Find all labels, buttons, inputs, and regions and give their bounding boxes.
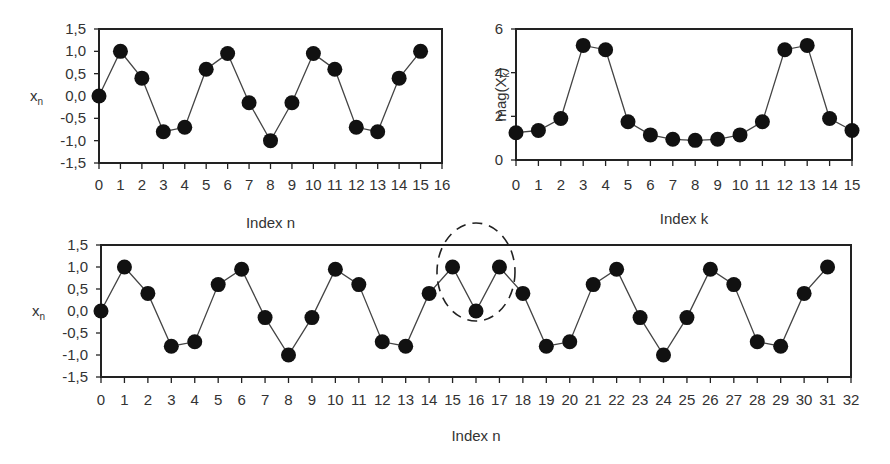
data-point-marker (492, 260, 507, 275)
y-tick-label: 0,0 (67, 302, 88, 319)
data-point-marker (643, 127, 658, 142)
data-point-marker (820, 260, 835, 275)
y-tick-label: 1,5 (65, 20, 86, 37)
data-point-marker (445, 260, 460, 275)
x-tick-label: 2 (138, 176, 146, 193)
y-tick-label: -1,0 (60, 132, 86, 149)
data-point-marker (140, 286, 155, 301)
x-tick-label: 31 (819, 391, 836, 408)
data-point-marker (398, 339, 413, 354)
data-point-marker (777, 42, 792, 57)
chart-top-right-dft-magnitude: 64200123456789101112131415Index kmag(Xk) (492, 20, 860, 227)
chart-top-left-time-signal: 1,51,00,50,0-0,5-1,0-1,50123456789101112… (30, 20, 450, 231)
data-point-marker (156, 124, 171, 139)
data-point-marker (234, 262, 249, 277)
x-tick-label: 28 (749, 391, 766, 408)
y-tick-label: 1,5 (67, 236, 88, 253)
data-point-marker (621, 114, 636, 129)
x-tick-label: 4 (181, 176, 189, 193)
data-point-marker (211, 277, 226, 292)
data-point-marker (263, 133, 278, 148)
x-tick-label: 20 (561, 391, 578, 408)
x-tick-label: 22 (608, 391, 625, 408)
data-point-marker (845, 123, 860, 138)
x-tick-label: 6 (646, 176, 654, 193)
data-point-marker (284, 95, 299, 110)
x-tick-label: 13 (369, 176, 386, 193)
data-point-marker (199, 62, 214, 77)
data-point-marker (304, 310, 319, 325)
data-point-marker (586, 277, 601, 292)
figure-canvas: 1,51,00,50,0-0,5-1,0-1,50123456789101112… (0, 0, 890, 464)
x-tick-label: 23 (632, 391, 649, 408)
x-tick-label: 4 (191, 391, 199, 408)
data-point-marker (633, 310, 648, 325)
y-tick-label: 1,0 (67, 258, 88, 275)
x-tick-label: 1 (120, 391, 128, 408)
x-tick-label: 21 (585, 391, 602, 408)
data-point-marker (242, 95, 257, 110)
x-tick-label: 1 (116, 176, 124, 193)
data-point-marker (822, 111, 837, 126)
data-point-marker (703, 262, 718, 277)
x-tick-label: 29 (772, 391, 789, 408)
x-tick-label: 1 (534, 176, 542, 193)
data-point-marker (562, 334, 577, 349)
x-tick-label: 16 (468, 391, 485, 408)
data-point-marker (755, 114, 770, 129)
x-tick-label: 2 (557, 176, 565, 193)
x-tick-label: 11 (327, 176, 343, 193)
data-point-marker (750, 334, 765, 349)
data-point-marker (220, 46, 235, 61)
y-tick-label: 0,0 (65, 87, 86, 104)
x-tick-label: 3 (167, 391, 175, 408)
x-tick-label: 24 (655, 391, 672, 408)
data-point-marker (328, 262, 343, 277)
data-point-marker (92, 89, 107, 104)
data-point-marker (539, 339, 554, 354)
x-tick-label: 14 (391, 176, 408, 193)
data-point-marker (187, 334, 202, 349)
x-tick-label: 13 (397, 391, 414, 408)
data-point-marker (656, 348, 671, 363)
x-tick-label: 11 (351, 391, 367, 408)
y-tick-label: -1,0 (62, 346, 88, 363)
x-tick-label: 3 (159, 176, 167, 193)
x-tick-label: 8 (284, 391, 292, 408)
x-tick-label: 27 (725, 391, 742, 408)
data-point-marker (327, 62, 342, 77)
data-point-marker (688, 133, 703, 148)
x-tick-label: 14 (421, 391, 438, 408)
x-tick-label: 19 (538, 391, 555, 408)
x-tick-label: 6 (237, 391, 245, 408)
y-axis-title: xn (32, 302, 45, 322)
x-axis-title: Index n (246, 214, 295, 231)
x-tick-label: 5 (202, 176, 210, 193)
y-tick-label: -0,5 (62, 324, 88, 341)
data-point-marker (306, 46, 321, 61)
x-tick-label: 15 (412, 176, 429, 193)
data-series-line (516, 45, 852, 140)
data-point-marker (598, 42, 613, 57)
x-tick-label: 5 (214, 391, 222, 408)
data-point-marker (370, 124, 385, 139)
x-tick-label: 13 (799, 176, 816, 193)
data-point-marker (609, 262, 624, 277)
data-point-marker (281, 348, 296, 363)
data-point-marker (351, 277, 366, 292)
data-point-marker (553, 111, 568, 126)
y-tick-label: -0,5 (60, 109, 86, 126)
x-tick-label: 16 (434, 176, 451, 193)
y-tick-label: -1,5 (60, 154, 86, 171)
data-point-marker (773, 339, 788, 354)
x-tick-label: 17 (491, 391, 508, 408)
data-point-marker (113, 44, 128, 59)
x-tick-label: 12 (776, 176, 793, 193)
x-tick-label: 15 (444, 391, 461, 408)
data-point-marker (800, 38, 815, 53)
y-tick-label: -1,5 (62, 368, 88, 385)
x-tick-label: 7 (261, 391, 269, 408)
x-tick-label: 0 (95, 176, 103, 193)
data-point-marker (797, 286, 812, 301)
x-tick-label: 12 (348, 176, 365, 193)
